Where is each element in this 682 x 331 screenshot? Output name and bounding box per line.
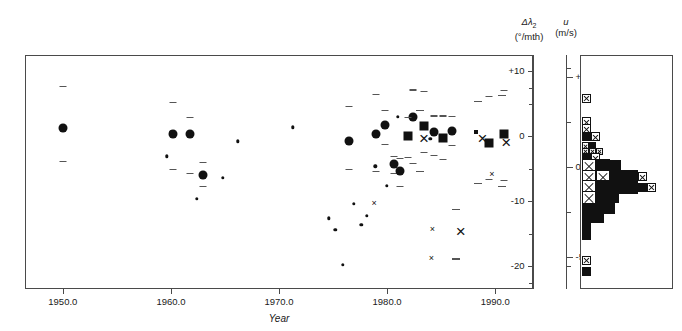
error-bar-cap	[404, 157, 411, 158]
error-bar-cap	[416, 110, 424, 111]
data-point-square-small	[474, 130, 478, 134]
error-bar-cap	[187, 173, 194, 174]
data-point-square	[403, 132, 412, 141]
right-tick-major	[567, 257, 573, 258]
error-bar-cap	[346, 106, 353, 107]
histogram-cell-cross	[638, 172, 647, 181]
data-point-cross-small: ×	[430, 228, 431, 229]
error-bar-cap	[397, 186, 404, 187]
data-point-square	[439, 133, 448, 142]
histogram-cell-filled	[582, 132, 591, 141]
data-point-cross-small: ×	[429, 258, 430, 259]
error-bar-cap	[440, 115, 447, 116]
error-bar-cap	[381, 144, 388, 145]
error-bar-cap	[474, 101, 482, 102]
histogram-cell-filled	[582, 267, 591, 276]
histogram-cell-filled	[638, 183, 647, 192]
left-tick-label: -10	[498, 197, 525, 207]
data-point-circle	[345, 137, 354, 146]
data-point-cross: ×	[419, 138, 420, 139]
error-bar-cap	[440, 159, 447, 160]
error-bar-cap	[373, 94, 380, 95]
error-bar-cap	[448, 116, 455, 117]
right-axis-units: (m/s)	[555, 27, 577, 38]
data-point-circle	[186, 130, 195, 139]
data-point-circle	[58, 124, 67, 133]
x-tick	[171, 289, 172, 294]
error-bar-cap	[187, 117, 194, 118]
error-bar-cap	[485, 179, 492, 180]
error-bar-cap	[498, 186, 506, 187]
error-bar-cap	[420, 91, 427, 92]
data-point-cross-small: ×	[371, 203, 372, 204]
error-bar-cap	[170, 102, 177, 103]
error-bar-cap	[373, 171, 380, 172]
x-tick	[495, 289, 496, 294]
left-axis-symbol: Δλ	[522, 16, 533, 27]
data-point-cross: ×	[456, 232, 457, 233]
left-axis-subscript: 2	[533, 22, 537, 29]
error-bar-cap	[485, 96, 492, 97]
error-bar-cap	[430, 155, 437, 156]
error-bar-cap	[410, 89, 417, 90]
left-axis-spine	[533, 55, 534, 289]
histogram-cell-filled	[582, 231, 591, 240]
data-point-cross: ×	[501, 143, 502, 144]
error-bar-cap	[474, 183, 482, 184]
x-tick	[63, 289, 64, 294]
left-axis-units: (°/mth)	[515, 31, 544, 42]
error-bar-cap	[416, 171, 424, 172]
right-tick-major	[567, 167, 573, 168]
histogram-cell-cross	[591, 132, 600, 141]
data-point-cross-small: ×	[489, 173, 490, 174]
right-axis-spine	[566, 55, 567, 289]
histogram-cell-filled	[610, 180, 624, 194]
histogram-cell-filled	[593, 212, 604, 223]
data-point-circle	[447, 127, 456, 136]
histogram-cell-filled	[624, 180, 638, 194]
x-tick-label: 1970.0	[264, 297, 293, 307]
x-axis-title: Year	[269, 313, 290, 324]
error-bar-cap	[430, 115, 437, 116]
right-axis-symbol: u	[563, 16, 568, 27]
x-tick-label: 1960.0	[156, 297, 185, 307]
error-bar-cap	[381, 110, 388, 111]
error-bar-cap	[346, 169, 353, 170]
left-tick-label: 0	[498, 132, 525, 142]
error-bar-cap	[200, 186, 207, 187]
error-bar-cap	[397, 158, 404, 159]
histogram-cell-cross	[647, 183, 656, 192]
data-point-circle	[380, 120, 389, 129]
x-tick	[387, 289, 388, 294]
error-bar-cap	[500, 90, 507, 91]
main-plot-frame	[25, 55, 533, 289]
data-point-circle	[429, 128, 438, 137]
error-bar-cap	[59, 86, 66, 87]
error-bar-cap	[410, 163, 417, 164]
error-bar-cap	[420, 152, 427, 153]
error-bar-cap	[452, 258, 460, 259]
data-point-circle	[199, 171, 208, 180]
right-tick-major	[567, 77, 573, 78]
error-bar-cap	[390, 156, 397, 157]
x-tick-label: 1950.0	[48, 297, 77, 307]
x-tick	[279, 289, 280, 294]
right-axis-title: u (m/s)	[543, 16, 589, 38]
data-point-circle	[396, 167, 405, 176]
histogram-cell-cross	[582, 256, 591, 265]
error-bar-cap	[500, 180, 507, 181]
x-tick-label: 1990.0	[481, 297, 510, 307]
left-tick-label: +10	[498, 67, 525, 77]
data-point-circle	[372, 130, 381, 139]
histogram-cell-filled	[604, 203, 615, 214]
histogram-cell-filled	[610, 194, 619, 203]
error-bar-cap	[498, 95, 506, 96]
histogram-cell-cross	[582, 94, 591, 103]
error-bar-cap	[59, 161, 66, 162]
error-bar-cap	[452, 209, 460, 210]
left-tick-label: -20	[498, 262, 525, 272]
error-bar-cap	[448, 145, 455, 146]
figure-root: ×××××××× 1950.01960.01970.01980.01990.0 …	[0, 0, 682, 331]
data-point-cross: ×	[477, 138, 478, 139]
error-bar-cap	[200, 162, 207, 163]
